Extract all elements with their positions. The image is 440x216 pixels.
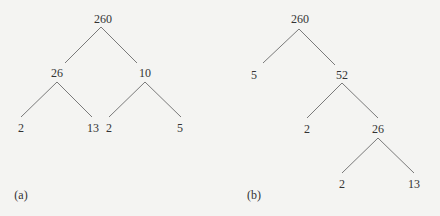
tree-a-leaf-node: 2 [106,122,112,134]
factor-trees-figure: 260 26 10 2 13 2 5 (a) 260 5 52 2 26 2 1… [0,0,440,216]
tree-a-leaf-node: 5 [177,122,183,134]
tree-a-caption: (a) [14,189,27,201]
edge [145,82,181,117]
edge [342,138,378,173]
tree-b-node: 52 [336,69,348,81]
tree-a-leaf-node: 2 [18,122,24,134]
tree-b-leaf-node: 2 [304,123,310,135]
edge [263,29,299,63]
edge [101,27,137,63]
tree-b-leaf-node: 13 [408,178,420,190]
edge [65,27,101,63]
edge [21,82,57,117]
edge [109,82,145,117]
edge [57,82,92,117]
tree-a-node: 10 [139,67,151,79]
tree-b-node: 26 [372,123,384,135]
tree-b-root-node: 260 [291,13,309,25]
tree-a-leaf-node: 13 [87,122,99,134]
tree-b-leaf-node: 2 [339,178,345,190]
edge [307,83,342,118]
tree-a-node: 26 [51,67,63,79]
edge [299,29,335,65]
tree-b-caption: (b) [247,189,261,201]
tree-edges [0,0,440,216]
tree-a-root-node: 260 [94,13,112,25]
tree-b-leaf-node: 5 [251,69,257,81]
edge [378,138,414,173]
edge [342,83,378,118]
